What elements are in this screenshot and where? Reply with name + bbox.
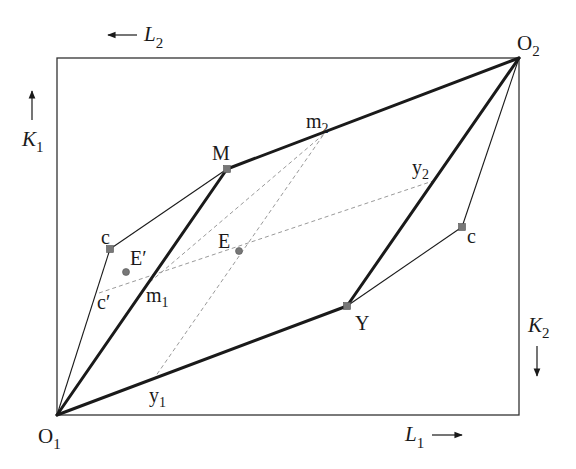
thick-lines <box>57 58 519 415</box>
label-y1: y1 <box>149 384 166 410</box>
label-m: M <box>212 142 230 164</box>
dashed-m1-m2 <box>150 134 324 282</box>
line-c-o2 <box>462 58 519 227</box>
label-e-prime: E′ <box>130 247 147 269</box>
label-e: E <box>218 230 230 252</box>
label-c-left: c <box>101 226 110 248</box>
label-l1: L1 <box>404 422 424 451</box>
line-y-c <box>347 227 462 306</box>
line-o1-c <box>57 249 110 415</box>
dashed-lines <box>99 134 433 380</box>
point-e-prime <box>123 269 130 276</box>
label-k1: K1 <box>21 127 44 155</box>
label-y: Y <box>355 312 369 334</box>
label-m1: m1 <box>146 284 169 310</box>
label-o1: O1 <box>38 424 61 452</box>
dashed-cprime-y2 <box>99 181 433 293</box>
point-y <box>344 303 351 310</box>
point-m <box>224 166 231 173</box>
point-e <box>236 248 243 255</box>
label-y2: y2 <box>412 156 429 182</box>
thin-lines <box>57 58 519 415</box>
line-m-o2 <box>227 58 519 169</box>
point-c-right <box>459 224 466 231</box>
line-y-o2 <box>347 58 519 306</box>
line-c-m <box>110 169 227 249</box>
label-o2: O2 <box>517 31 540 59</box>
label-l2: L2 <box>143 22 163 51</box>
label-m2: m2 <box>306 110 329 136</box>
edgeworth-box <box>57 58 519 415</box>
label-c-prime: c′ <box>97 291 110 313</box>
label-k2: K2 <box>527 313 550 341</box>
line-o1-y <box>57 306 347 415</box>
edgeworth-box-diagram: L2 K1 K2 L1 O1 O2 M Y E E′ c c c′ m1 m2 … <box>0 0 576 469</box>
line-o1-m <box>57 169 227 415</box>
label-c-right: c <box>467 225 476 247</box>
